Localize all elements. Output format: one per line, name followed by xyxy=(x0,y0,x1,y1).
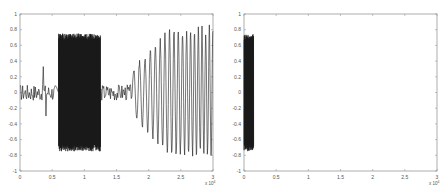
y-tick-label: -1 xyxy=(13,168,18,174)
y-tick-label: 0 xyxy=(238,89,241,95)
right-waveform-chart: 10.80.60.40.20-0.2-0.4-0.6-0.8-100.511.5… xyxy=(224,0,448,193)
x-tick-label: 0.5 xyxy=(273,174,280,180)
x-tick-label: 0 xyxy=(19,174,22,180)
y-tick-label: -0.4 xyxy=(8,121,17,127)
y-tick-label: -0.6 xyxy=(232,136,241,142)
x-tick-label: 2.5 xyxy=(177,174,184,180)
x-tick-label: 1.5 xyxy=(337,174,344,180)
x-tick-label: 1.5 xyxy=(113,174,120,180)
left-waveform-chart: 10.80.60.40.20-0.2-0.4-0.6-0.8-100.511.5… xyxy=(0,0,224,193)
x-tick-label: 0.5 xyxy=(49,174,56,180)
y-tick-label: -0.6 xyxy=(8,136,17,142)
y-tick-label: 1 xyxy=(238,11,241,17)
y-tick-label: 0.2 xyxy=(10,74,17,80)
left-chart-panel: 10.80.60.40.20-0.2-0.4-0.6-0.8-100.511.5… xyxy=(0,0,224,193)
y-tick-label: 0.6 xyxy=(234,42,241,48)
y-tick-label: -0.2 xyxy=(8,105,17,111)
y-tick-label: 0.4 xyxy=(234,58,241,64)
y-tick-label: 0.8 xyxy=(10,26,17,32)
x-tick-label: 2 xyxy=(371,174,374,180)
x-tick-label: 2 xyxy=(147,174,150,180)
y-tick-label: 0.8 xyxy=(234,26,241,32)
x-tick-label: 0 xyxy=(243,174,246,180)
y-tick-label: 0.4 xyxy=(10,58,17,64)
y-tick-label: -1 xyxy=(237,168,242,174)
right-chart-panel: 10.80.60.40.20-0.2-0.4-0.6-0.8-100.511.5… xyxy=(224,0,448,193)
x-tick-label: 1 xyxy=(307,174,310,180)
x-exponent-label: x 104 xyxy=(429,180,440,186)
y-tick-label: -0.8 xyxy=(8,152,17,158)
axes-frame xyxy=(244,14,437,171)
x-exponent-label: x 104 xyxy=(205,180,216,186)
y-tick-label: 0 xyxy=(14,89,17,95)
y-tick-label: -0.8 xyxy=(232,152,241,158)
y-tick-label: 0.6 xyxy=(10,42,17,48)
waveform-line xyxy=(20,25,213,156)
y-tick-label: 1 xyxy=(14,11,17,17)
y-tick-label: -0.2 xyxy=(232,105,241,111)
waveform-line xyxy=(244,34,254,151)
y-tick-label: 0.2 xyxy=(234,74,241,80)
x-tick-label: 2.5 xyxy=(401,174,408,180)
x-tick-label: 1 xyxy=(83,174,86,180)
y-tick-label: -0.4 xyxy=(232,121,241,127)
